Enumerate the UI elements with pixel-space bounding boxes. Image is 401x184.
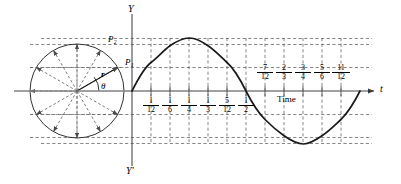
figure-canvas (0, 0, 401, 184)
tick-label-2-3: 2 3 (276, 64, 292, 82)
tick-label-1-12: 1 12 (143, 97, 159, 115)
tick-label-1-6: 1 6 (162, 97, 178, 115)
tick-label-3-4: 3 4 (295, 64, 311, 82)
sine-generation-figure: Y Y' t Time r θ P₂ P₁ 1 12 1 6 1 4 1 3 5… (0, 0, 401, 184)
tick-label-1-4: 1 4 (181, 97, 197, 115)
tick-label-5-12: 5 12 (219, 97, 235, 115)
t-axis-label: t (380, 84, 383, 94)
tick-label-5-6: 5 6 (314, 64, 330, 82)
time-label: Time (277, 95, 296, 104)
angle-label-theta: θ (101, 82, 105, 91)
tick-label-11-12: 11 12 (332, 64, 350, 82)
tick-label-1-3: 1 3 (200, 97, 216, 115)
point-p2: P₂ (108, 35, 117, 44)
tick-label-1-2: 1 2 (238, 97, 254, 115)
y-prime-axis-label: Y' (126, 166, 134, 176)
radius-label-r: r (101, 70, 105, 79)
radius-vector-r (77, 68, 118, 92)
y-axis-label: Y (128, 4, 134, 14)
tick-label-7-12: 7 12 (257, 64, 273, 82)
point-p1: P₁ (125, 58, 134, 67)
